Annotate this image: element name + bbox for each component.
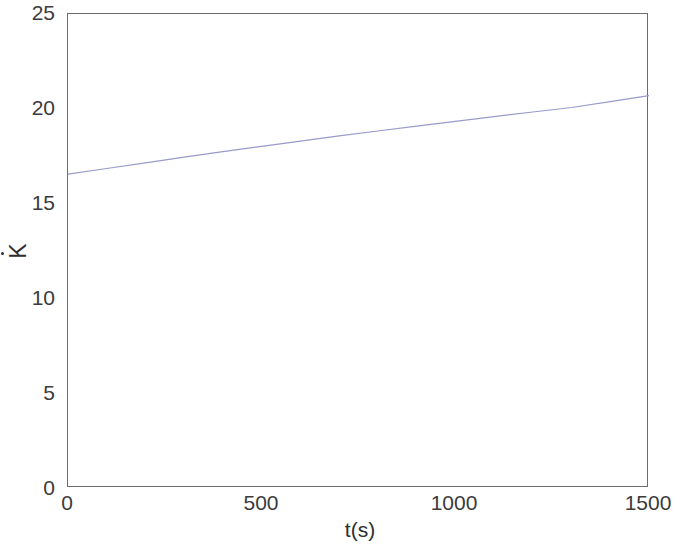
x-tick-label-500: 500 [191, 492, 331, 513]
x-axis-title: t(s) [288, 518, 432, 542]
y-tick-label-20: 20 [0, 97, 55, 118]
data-series-line [68, 96, 649, 175]
y-tick-label-25: 25 [0, 2, 55, 23]
x-tick-label-1500: 1500 [578, 492, 676, 513]
plot-area [67, 13, 648, 487]
y-tick-label-15: 15 [0, 192, 55, 213]
y-axis-title: K [5, 211, 31, 291]
data-line-svg [68, 14, 649, 488]
x-tick-label-0: 0 [0, 492, 137, 513]
x-tick-label-1000: 1000 [384, 492, 524, 513]
y-tick-label-5: 5 [0, 382, 55, 403]
